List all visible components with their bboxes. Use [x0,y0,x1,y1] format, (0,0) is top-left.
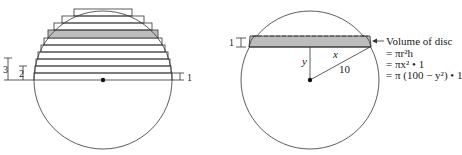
shaded-slab [48,30,158,38]
slab-stack [34,9,172,80]
dim-1-marker [172,73,184,80]
label-dim-1: 1 [187,72,192,83]
label-thickness: 1 [229,37,234,48]
left-figure [4,9,184,149]
label-x: x [332,48,338,60]
label-y: y [301,55,307,67]
arrow-head-icon [372,39,377,44]
label-dim-3: 3 [3,64,8,75]
annotation-line3: = π (100 − y²) • 1 [386,70,462,81]
right-center-dot [308,78,312,82]
left-center-dot [101,78,105,82]
label-dim-2: 2 [19,68,24,79]
disc-slab [249,36,371,47]
label-radius: 10 [339,63,351,75]
annotation-title: Volume of disc [386,36,452,47]
